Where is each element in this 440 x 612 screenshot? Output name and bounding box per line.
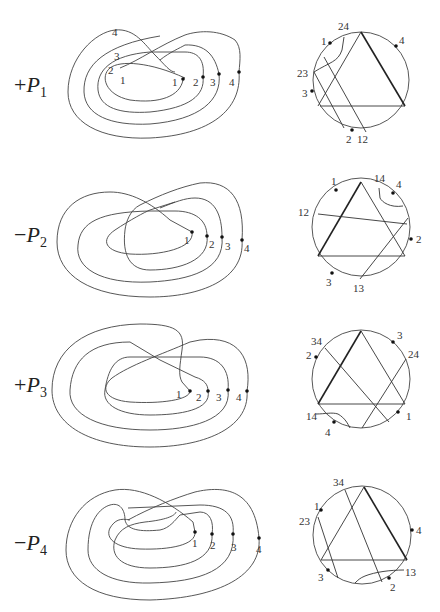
- strand-label: 1: [120, 74, 126, 86]
- chord-label: 14: [374, 172, 386, 184]
- row-p2: −P2 1 2 3 4 1 14 4 12 2 3 13: [0, 150, 440, 300]
- strand-label: 3: [216, 391, 222, 403]
- strand-label: 2: [209, 238, 215, 250]
- chord-label: 24: [338, 20, 350, 32]
- row-p4: −P4 1 2 3 4 34 1 23 4 3 13 2: [0, 450, 440, 612]
- chord-label: 2: [390, 581, 396, 593]
- strand-label: 1: [184, 234, 190, 246]
- chord-label: 3: [302, 87, 308, 99]
- chord-label: 34: [333, 476, 345, 488]
- chord-label: 34: [311, 335, 323, 347]
- chord-diagram-p3: 34 3 2 24 14 1 4: [290, 290, 440, 440]
- chord-label: 14: [306, 410, 318, 422]
- strand-label: 1: [192, 537, 198, 549]
- strand-label: 3: [225, 240, 231, 252]
- chord-label: 3: [318, 571, 324, 583]
- chord-label: 3: [326, 276, 332, 288]
- chord-diagram-p1: 24 1 4 23 3 2 12: [290, 0, 440, 150]
- chord-label: 1: [406, 410, 412, 422]
- strand-label: 4: [112, 26, 118, 38]
- strand-label: 4: [229, 76, 235, 88]
- chord-label: 1: [331, 175, 337, 187]
- strand-label: 2: [210, 539, 216, 551]
- chord-diagram-p4: 34 1 23 4 3 13 2: [290, 450, 440, 612]
- row-p1: +P1 4 3 2 1 1 2 3 4 24 1 4 23: [0, 0, 440, 150]
- strand-label: 4: [244, 242, 250, 254]
- chord-label: 12: [298, 206, 309, 218]
- strand-label: 3: [210, 76, 216, 88]
- chord-label: 23: [297, 67, 309, 79]
- chord-label: 4: [416, 524, 422, 536]
- chord-label: 1: [321, 35, 327, 47]
- chord-label: 2: [416, 233, 422, 245]
- knot-diagram-p1: 4 3 2 1 1 2 3 4: [0, 0, 300, 150]
- chord-label: 3: [397, 329, 403, 341]
- chord-label: 2: [306, 349, 312, 361]
- knot-diagram-p2: 1 2 3 4: [0, 150, 300, 300]
- chord-label: 4: [399, 34, 405, 46]
- chord-label: 23: [299, 515, 311, 527]
- chord-label: 24: [408, 348, 420, 360]
- strand-label: 1: [172, 76, 178, 88]
- strand-label: 4: [236, 391, 242, 403]
- strand-label: 2: [108, 64, 114, 76]
- chord-label: 13: [405, 566, 417, 578]
- strand-label: 3: [114, 50, 120, 62]
- row-p3: +P3 1 2 3 4 34 3 2 24 14 1 4: [0, 300, 440, 450]
- knot-diagram-p4: 1 2 3 4: [0, 450, 300, 612]
- strand-label: 2: [193, 76, 199, 88]
- strand-label: 2: [196, 391, 202, 403]
- chord-diagram-p2: 1 14 4 12 2 3 13: [290, 140, 440, 290]
- knot-diagram-p3: 1 2 3 4: [0, 300, 300, 450]
- strand-label: 1: [176, 388, 182, 400]
- chord-label: 4: [325, 426, 331, 438]
- chord-label: 1: [314, 500, 320, 512]
- strand-label: 4: [256, 543, 262, 555]
- chord-label: 4: [396, 178, 402, 190]
- strand-label: 3: [231, 541, 237, 553]
